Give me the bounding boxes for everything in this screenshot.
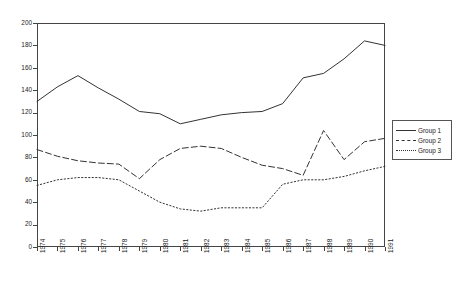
x-tick-label: 1975 [60, 239, 66, 253]
x-tick-label: 1981 [183, 239, 189, 253]
x-tick-mark [344, 247, 345, 251]
x-tick-label: 1979 [142, 239, 148, 253]
x-tick-label: 1991 [388, 239, 394, 253]
x-tick-mark [385, 247, 386, 251]
y-tick-mark [33, 202, 37, 203]
x-tick-label: 1983 [224, 239, 230, 253]
legend-swatch-dashed-icon [396, 137, 416, 144]
line-chart: 020406080100120140160180200 197419751976… [0, 0, 457, 294]
y-tick-mark [33, 113, 37, 114]
y-tick-mark [33, 180, 37, 181]
x-tick-label: 1977 [101, 239, 107, 253]
chart-legend: Group 1Group 2Group 3 [392, 120, 452, 160]
x-tick-label: 1976 [81, 239, 87, 253]
x-tick-label: 1980 [163, 239, 169, 253]
legend-label: Group 3 [418, 147, 441, 154]
y-tick-mark [33, 90, 37, 91]
legend-swatch-solid-icon [396, 127, 416, 134]
x-tick-mark [262, 247, 263, 251]
legend-item-group-1[interactable]: Group 1 [396, 125, 448, 135]
x-tick-mark [78, 247, 79, 251]
y-tick-label: 0 [2, 244, 32, 250]
x-tick-label: 1987 [306, 239, 312, 253]
x-tick-mark [324, 247, 325, 251]
y-tick-label: 140 [2, 87, 32, 93]
x-tick-mark [201, 247, 202, 251]
x-tick-label: 1982 [204, 239, 210, 253]
legend-swatch-dotted-icon [396, 147, 416, 154]
x-tick-label: 1978 [122, 239, 128, 253]
x-tick-mark [119, 247, 120, 251]
x-tick-label: 1988 [327, 239, 333, 253]
legend-label: Group 1 [418, 127, 441, 134]
legend-item-group-3[interactable]: Group 3 [396, 145, 448, 155]
x-tick-label: 1985 [265, 239, 271, 253]
x-tick-mark [365, 247, 366, 251]
x-tick-mark [139, 247, 140, 251]
plot-area [37, 23, 385, 247]
y-tick-mark [33, 157, 37, 158]
y-tick-label: 80 [2, 154, 32, 160]
x-tick-mark [98, 247, 99, 251]
y-tick-label: 60 [2, 177, 32, 183]
x-tick-mark [37, 247, 38, 251]
x-tick-label: 1986 [286, 239, 292, 253]
x-tick-label: 1989 [347, 239, 353, 253]
y-tick-mark [33, 225, 37, 226]
y-tick-label: 180 [2, 42, 32, 48]
x-tick-label: 1984 [245, 239, 251, 253]
legend-item-group-2[interactable]: Group 2 [396, 135, 448, 145]
y-tick-label: 20 [2, 221, 32, 227]
y-tick-label: 40 [2, 199, 32, 205]
y-tick-label: 160 [2, 65, 32, 71]
x-tick-mark [242, 247, 243, 251]
x-tick-mark [303, 247, 304, 251]
x-tick-mark [57, 247, 58, 251]
legend-label: Group 2 [418, 137, 441, 144]
y-tick-mark [33, 135, 37, 136]
x-tick-mark [160, 247, 161, 251]
x-tick-label: 1990 [368, 239, 374, 253]
y-tick-mark [33, 45, 37, 46]
x-tick-mark [180, 247, 181, 251]
y-tick-label: 200 [2, 20, 32, 26]
x-tick-label: 1974 [40, 239, 46, 253]
y-tick-mark [33, 23, 37, 24]
y-tick-label: 120 [2, 109, 32, 115]
x-tick-mark [221, 247, 222, 251]
x-tick-mark [283, 247, 284, 251]
y-tick-mark [33, 68, 37, 69]
y-tick-label: 100 [2, 132, 32, 138]
